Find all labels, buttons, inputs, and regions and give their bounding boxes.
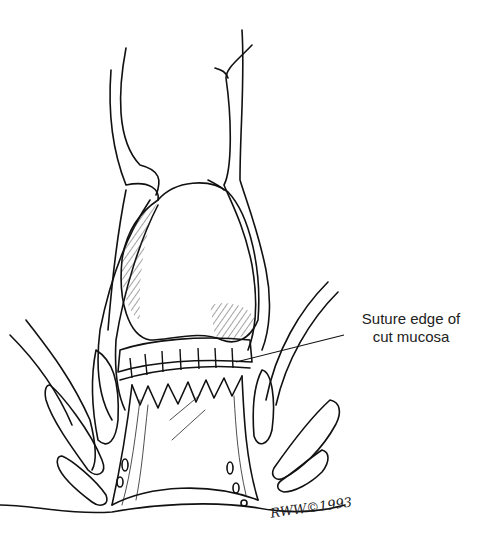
anal-canal	[112, 376, 258, 505]
sphincter-left	[10, 320, 118, 505]
label-line-1: Suture edge of	[340, 310, 482, 328]
label-line-2: cut mucosa	[340, 328, 482, 346]
rectal-wall-right	[208, 30, 269, 350]
mucosal-bulge	[121, 183, 259, 342]
anatomy-illustration	[0, 0, 482, 547]
sphincter-right	[253, 282, 339, 492]
suture-line	[118, 338, 252, 408]
suture-edge-label: Suture edge of cut mucosa	[340, 310, 482, 346]
